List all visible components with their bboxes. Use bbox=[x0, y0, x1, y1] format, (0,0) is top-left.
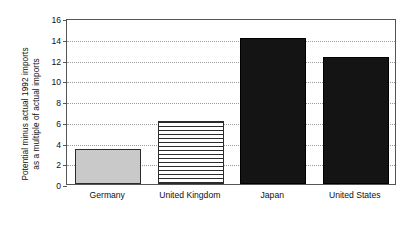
y-axis-tick-label: 14 bbox=[51, 36, 61, 46]
y-axis-title-line-2: as a multiple of actual imports bbox=[31, 47, 42, 180]
bar-japan bbox=[240, 38, 306, 184]
y-axis-tick-label: 10 bbox=[51, 77, 61, 87]
y-axis-title: Potential minus actual 1992 imports as a… bbox=[14, 0, 48, 228]
x-axis-label-japan: Japan bbox=[231, 190, 314, 200]
y-axis-tick-label: 8 bbox=[56, 98, 61, 108]
y-axis-tick-mark bbox=[63, 124, 67, 125]
y-axis-tick-label: 6 bbox=[56, 119, 61, 129]
y-axis-tick-label: 12 bbox=[51, 57, 61, 67]
x-axis-label-united-states: United States bbox=[314, 190, 397, 200]
gridline bbox=[67, 41, 395, 42]
y-axis-title-line-1: Potential minus actual 1992 imports bbox=[20, 47, 31, 180]
y-axis-tick-mark bbox=[63, 165, 67, 166]
y-axis-tick-mark bbox=[63, 186, 67, 187]
y-axis-tick-mark bbox=[63, 20, 67, 21]
y-axis-tick-label: 0 bbox=[56, 181, 61, 191]
x-axis-label-united-kingdom: United Kingdom bbox=[149, 190, 232, 200]
bar-united-states bbox=[323, 57, 389, 184]
y-axis-tick-mark bbox=[63, 82, 67, 83]
y-axis-tick-mark bbox=[63, 145, 67, 146]
plot-area: 0246810121416 bbox=[66, 19, 396, 185]
bar-germany bbox=[75, 149, 141, 184]
bar-chart: Potential minus actual 1992 imports as a… bbox=[0, 0, 417, 228]
y-axis-tick-label: 2 bbox=[56, 160, 61, 170]
y-axis-tick-mark bbox=[63, 41, 67, 42]
y-axis-tick-label: 4 bbox=[56, 140, 61, 150]
bar-united-kingdom bbox=[158, 121, 224, 184]
y-axis-tick-label: 16 bbox=[51, 15, 61, 25]
y-axis-tick-mark bbox=[63, 103, 67, 104]
y-axis-tick-mark bbox=[63, 62, 67, 63]
x-axis-label-germany: Germany bbox=[66, 190, 149, 200]
